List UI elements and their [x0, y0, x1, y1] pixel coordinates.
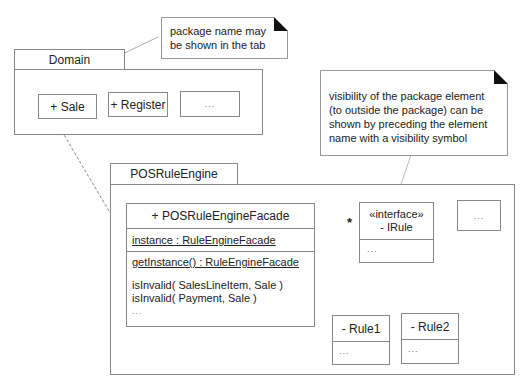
facade-attribute: instance : RuleEngineFacade [127, 229, 314, 252]
rule1-class: - Rule1 ... [332, 315, 390, 365]
irule-header: «interface» - IRule [360, 203, 433, 240]
rule2-name: - Rule2 [402, 314, 458, 340]
rule2-body: ... [402, 340, 458, 358]
rule2-class: - Rule2 ... [401, 313, 459, 364]
irule-name: - IRule [380, 221, 412, 234]
irule-stereotype: «interface» [369, 208, 423, 221]
domain-element-sale: + Sale [38, 94, 97, 119]
multiplicity-label: * [347, 215, 352, 230]
irule-interface: «interface» - IRule ... [359, 202, 434, 263]
note-fold-icon [274, 17, 288, 31]
facade-operations: getInstance() : RuleEngineFacade isInval… [127, 252, 314, 322]
domain-element-more: ... [180, 91, 240, 117]
facade-class: + POSRuleEngineFacade instance : RuleEng… [126, 203, 315, 327]
visibility-note-text: visibility of the package element (to ou… [329, 90, 487, 144]
facade-operation-more: ... [132, 305, 309, 318]
facade-class-name: + POSRuleEngineFacade [127, 204, 314, 229]
rule1-body: ... [333, 342, 389, 360]
domain-package-tab: Domain [14, 49, 125, 70]
domain-package-name: Domain [49, 53, 90, 67]
facade-operation: isInvalid( SalesLineItem, Sale ) [132, 279, 309, 292]
rule1-name: - Rule1 [333, 316, 389, 342]
tab-note: package name may be shown in the tab [161, 17, 288, 59]
rule-engine-package-name: POSRuleEngine [130, 167, 217, 181]
irule-body: ... [360, 240, 433, 258]
facade-operation: isInvalid( Payment, Sale ) [132, 292, 309, 305]
tab-note-text: package name may be shown in the tab [170, 25, 266, 51]
rule-engine-package-tab: POSRuleEngine [110, 163, 238, 185]
rule-engine-element-more: ... [457, 200, 501, 231]
facade-static-operation: getInstance() : RuleEngineFacade [132, 256, 309, 269]
visibility-note: visibility of the package element (to ou… [320, 70, 508, 156]
domain-element-register: + Register [108, 92, 168, 117]
note-fold-icon [494, 70, 508, 84]
